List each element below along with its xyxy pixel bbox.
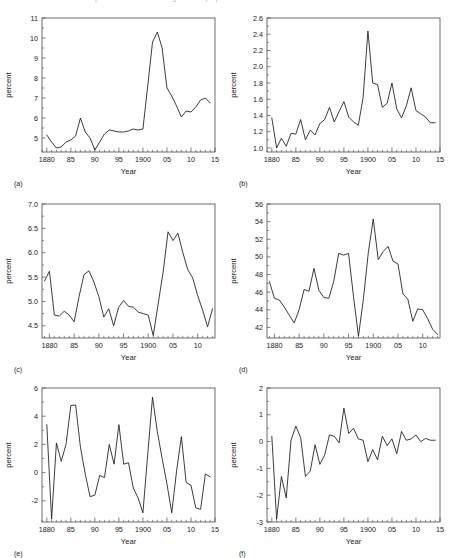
x-tick-label: 1880 <box>264 525 280 534</box>
x-tick-label: 1880 <box>264 155 280 164</box>
x-tick-label: 85 <box>67 525 75 534</box>
y-tick-label: 0 <box>259 437 263 446</box>
x-axis-tick-labels: 18808590951900051015 <box>264 525 444 534</box>
plot-svg-f: -3-2-101218808590951900051015Yearpercent <box>225 374 450 558</box>
x-tick-label: 95 <box>115 525 123 534</box>
cutoff-title-text: percent of the foreign-born population <box>95 0 247 2</box>
x-tick-label: 1900 <box>140 341 156 350</box>
y-tick-label: 11 <box>31 14 38 23</box>
plot-frame <box>42 388 215 522</box>
x-tick-label: 05 <box>169 341 177 350</box>
x-axis-tick-labels: 188085909519000510 <box>41 341 201 350</box>
y-tick-label: -3 <box>257 518 263 527</box>
x-tick-label: 15 <box>436 155 444 164</box>
x-axis-minor-ticks <box>42 148 215 153</box>
x-tick-label: 85 <box>67 155 75 164</box>
x-tick-label: 1880 <box>39 155 55 164</box>
y-tick-label: 5.5 <box>28 273 38 282</box>
plot-frame <box>267 18 440 152</box>
y-axis-title: percent <box>229 71 238 97</box>
x-axis-tick-labels: 18808590951900051015 <box>39 525 219 534</box>
data-series-line <box>47 397 210 519</box>
y-tick-label: 50 <box>255 252 263 261</box>
data-series-line <box>272 31 435 148</box>
x-tick-label: 1900 <box>135 525 151 534</box>
x-axis-minor-ticks <box>42 518 215 523</box>
y-tick-label: 54 <box>255 217 263 226</box>
x-tick-label: 05 <box>163 525 171 534</box>
x-axis-title: Year <box>121 537 137 546</box>
y-tick-label: 6.0 <box>28 248 38 257</box>
plot-svg-c: 4.55.05.56.06.57.0188085909519000510Year… <box>0 190 225 376</box>
y-tick-label: 46 <box>255 288 263 297</box>
plot-svg-a: 56789101118808590951900051015Yearpercent <box>0 4 225 190</box>
x-tick-label: 05 <box>163 155 171 164</box>
plot-svg-e: -2024618808590951900051015Yearpercent <box>0 374 225 558</box>
y-tick-label: 5 <box>34 134 38 143</box>
x-tick-label: 1900 <box>360 155 376 164</box>
y-axis-title: percent <box>4 71 13 97</box>
x-tick-label: 05 <box>394 341 402 350</box>
y-axis-ticks: 1.01.21.41.61.82.02.22.42.6 <box>253 14 271 153</box>
y-tick-label: 5.0 <box>28 297 38 306</box>
x-tick-label: 1880 <box>41 341 57 350</box>
y-axis-ticks: 567891011 <box>30 14 46 143</box>
y-axis-title: percent <box>4 257 13 283</box>
y-tick-label: 48 <box>255 270 263 279</box>
x-axis-title: Year <box>121 167 137 176</box>
y-tick-label: 2 <box>259 384 263 393</box>
x-tick-label: 05 <box>388 155 396 164</box>
x-tick-label: 10 <box>412 155 420 164</box>
x-tick-label: 10 <box>412 525 420 534</box>
y-tick-label: 4 <box>34 412 38 421</box>
x-tick-label: 90 <box>95 341 103 350</box>
chart-panel-a: 56789101118808590951900051015Yearpercent… <box>0 4 225 190</box>
x-tick-label: 95 <box>340 155 348 164</box>
x-tick-label: 90 <box>91 525 99 534</box>
plot-frame <box>42 18 215 152</box>
y-axis-title: percent <box>229 257 238 283</box>
x-tick-label: 1880 <box>266 341 282 350</box>
y-tick-label: 8 <box>34 74 38 83</box>
y-tick-label: 7.0 <box>28 200 38 209</box>
y-axis-title: percent <box>229 441 238 467</box>
y-tick-label: 4.5 <box>28 321 38 330</box>
y-tick-label: 2.6 <box>253 14 263 23</box>
y-tick-label: 56 <box>255 200 263 209</box>
x-tick-label: 10 <box>419 341 427 350</box>
x-axis-tick-labels: 18808590951900051015 <box>264 155 444 164</box>
x-tick-label: 10 <box>187 155 195 164</box>
x-tick-label: 1880 <box>39 525 55 534</box>
y-tick-label: -1 <box>257 464 263 473</box>
x-axis-title: Year <box>121 353 137 362</box>
plot-frame <box>42 204 215 338</box>
y-tick-label: 6 <box>34 384 38 393</box>
y-tick-label: 10 <box>30 34 38 43</box>
x-axis-tick-labels: 18808590951900051015 <box>39 155 219 164</box>
y-tick-label: 2.4 <box>253 30 263 39</box>
x-tick-label: 10 <box>187 525 195 534</box>
x-tick-label: 1900 <box>135 155 151 164</box>
x-tick-label: 15 <box>211 155 219 164</box>
y-tick-label: 2 <box>34 440 38 449</box>
x-tick-label: 85 <box>70 341 78 350</box>
data-series-line <box>44 232 212 336</box>
y-tick-label: 9 <box>34 54 38 63</box>
panel-letter-a: (a) <box>14 180 23 187</box>
y-tick-label: 0 <box>34 468 38 477</box>
x-tick-label: 15 <box>436 525 444 534</box>
x-tick-label: 95 <box>120 341 128 350</box>
y-axis-title: percent <box>4 441 13 467</box>
figure-panel-grid: percent of the foreign-born population 5… <box>0 0 450 558</box>
x-tick-label: 95 <box>115 155 123 164</box>
y-tick-label: 52 <box>255 235 263 244</box>
plot-svg-b: 1.01.21.41.61.82.02.22.42.61880859095190… <box>225 4 450 190</box>
y-tick-label: 7 <box>34 94 38 103</box>
data-series-line <box>272 408 435 519</box>
x-tick-label: 95 <box>340 525 348 534</box>
y-tick-label: 1.2 <box>253 127 263 136</box>
y-tick-label: 1.6 <box>253 95 263 104</box>
x-axis-minor-ticks <box>269 334 437 339</box>
y-tick-label: -2 <box>32 496 38 505</box>
chart-panel-b: 1.01.21.41.61.82.02.22.42.61880859095190… <box>225 4 450 190</box>
